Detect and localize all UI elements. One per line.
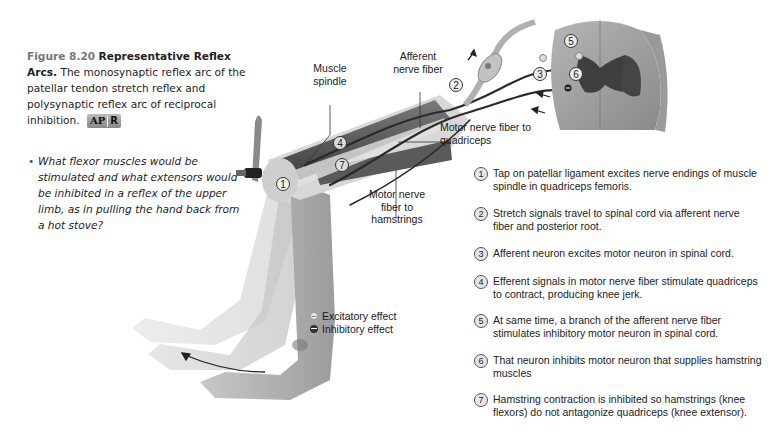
svg-text:7: 7	[339, 160, 345, 171]
excitatory-icon	[310, 312, 318, 320]
marker-1: 1	[277, 178, 290, 191]
svg-text:1: 1	[280, 179, 286, 190]
legend-excitatory: Excitatory effect	[310, 310, 397, 323]
dorsal-root-ganglion	[465, 22, 535, 105]
excitatory-symbol	[576, 53, 583, 60]
step-number-icon: 3	[474, 247, 488, 261]
step-number-icon: 7	[474, 393, 488, 407]
reflex-hammer-icon	[236, 115, 262, 182]
step-number-icon: 2	[474, 207, 488, 221]
svg-text:4: 4	[337, 138, 343, 149]
marker-3: 3	[534, 68, 547, 81]
step-number-icon: 1	[474, 167, 488, 181]
marker-4: 4	[334, 137, 347, 150]
excitatory-symbol	[540, 55, 547, 62]
svg-text:5: 5	[568, 36, 574, 47]
step-number-icon: 6	[474, 354, 488, 368]
marker-6: 6	[570, 68, 583, 81]
marker-7: 7	[336, 159, 349, 172]
svg-text:3: 3	[537, 69, 543, 80]
legend: Excitatory effect Inhibitory effect	[310, 310, 397, 335]
legend-inhibitory: Inhibitory effect	[310, 323, 397, 336]
label-muscle-spindle: Muscle spindle	[300, 62, 360, 87]
marker-5: 5	[565, 35, 578, 48]
step-number-icon: 5	[474, 314, 488, 328]
svg-text:6: 6	[573, 69, 579, 80]
marker-2: 2	[450, 79, 463, 92]
label-motor-nerve-quadriceps: Motor nerve fiber to quadriceps	[440, 121, 550, 146]
inhibitory-icon	[310, 325, 318, 333]
svg-text:2: 2	[453, 80, 459, 91]
step-number-icon: 4	[474, 275, 488, 289]
label-motor-nerve-hamstrings: Motor nerve fiber to hamstrings	[358, 188, 436, 226]
label-afferent-nerve-fiber: Afferent nerve fiber	[392, 50, 444, 75]
